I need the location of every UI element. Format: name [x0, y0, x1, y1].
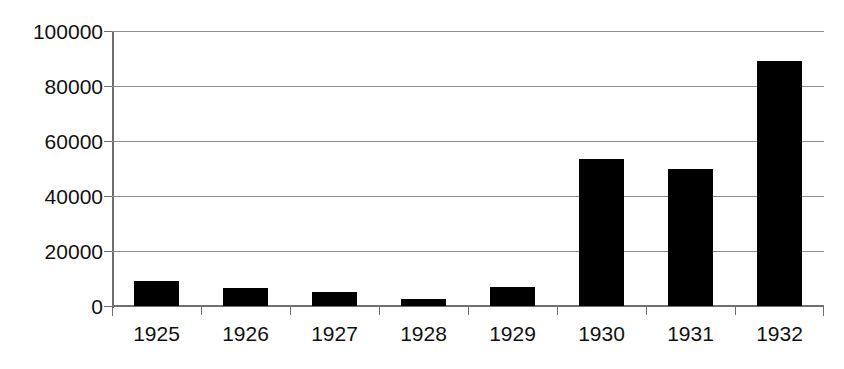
bar-1925: [134, 281, 178, 306]
plot-area: [112, 31, 824, 306]
x-axis-tick-label: 1926: [201, 322, 290, 345]
gridline: [112, 86, 824, 87]
x-axis-tick-mark: [557, 307, 558, 315]
x-axis-tick-label: 1932: [735, 322, 824, 345]
gridline: [112, 251, 824, 252]
bar-1930: [579, 159, 623, 306]
x-axis-tick-label: 1925: [112, 322, 201, 345]
gridline: [112, 31, 824, 32]
gridline: [112, 196, 824, 197]
x-axis-tick-label: 1931: [646, 322, 735, 345]
y-axis-tick-label: 80000: [3, 76, 103, 97]
bar-1932: [757, 61, 801, 306]
y-axis-tick-label: 60000: [3, 131, 103, 152]
bar-1926: [223, 288, 267, 306]
x-axis-tick-mark: [112, 307, 113, 316]
bar-1927: [312, 292, 356, 306]
gridline: [112, 141, 824, 142]
x-axis-tick-label: 1930: [557, 322, 646, 345]
x-axis-tick-mark: [735, 307, 736, 315]
y-axis-tick-label: 20000: [3, 241, 103, 262]
bar-1931: [668, 169, 712, 306]
x-axis-tick-label: 1928: [379, 322, 468, 345]
y-axis-tick-label: 0: [3, 296, 103, 317]
y-axis-tick-label: 100000: [3, 21, 103, 42]
y-axis-tick-label: 40000: [3, 186, 103, 207]
bar-1928: [401, 299, 445, 306]
x-axis-tick-mark: [290, 307, 291, 315]
x-axis-tick-mark: [823, 307, 824, 316]
x-axis-tick-label: 1927: [290, 322, 379, 345]
bar-chart: 100000 80000 60000 40000 20000 0: [0, 0, 844, 369]
x-axis-tick-mark: [379, 307, 380, 315]
x-axis-tick-label: 1929: [468, 322, 557, 345]
x-axis-tick-mark: [201, 307, 202, 315]
x-axis-tick-mark: [468, 307, 469, 315]
y-axis-tick-labels: 100000 80000 60000 40000 20000 0: [0, 0, 103, 369]
x-axis-tick-mark: [646, 307, 647, 315]
bar-1929: [490, 287, 534, 306]
